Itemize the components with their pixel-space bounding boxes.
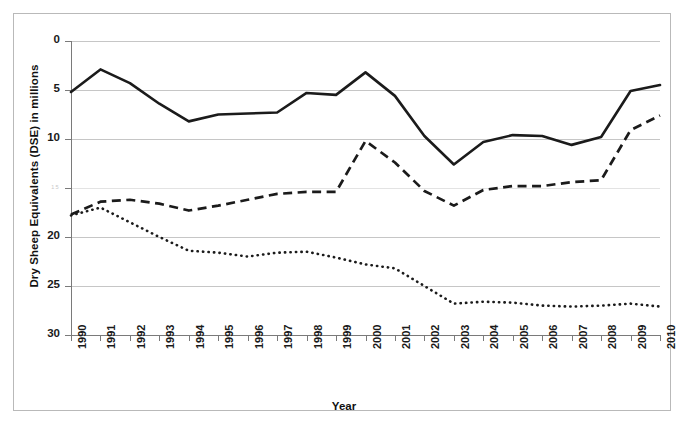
- series-line-dotted: [71, 208, 660, 307]
- x-axis-title: Year: [0, 400, 688, 412]
- data-series-layer: [0, 0, 688, 439]
- series-line-dashed: [71, 115, 660, 214]
- chart-figure: Dry Sheep Equivalents (DSE) in millions …: [0, 0, 688, 439]
- series-line-solid: [71, 69, 660, 164]
